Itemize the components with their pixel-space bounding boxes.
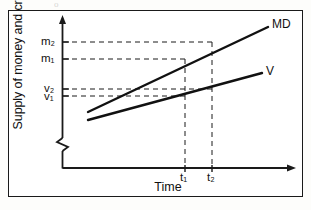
annotation-dashed-lines [63, 42, 212, 168]
x-axis-title: Time [128, 180, 208, 194]
y-tick-label-v1: v₁ [44, 90, 54, 102]
y-axis-title-wrapper: Supply of money and credit [7, 0, 29, 135]
y-axis-break-symbol [57, 138, 68, 151]
y-axis-arrowhead [59, 15, 66, 24]
figure-page: o [0, 0, 311, 210]
series-label-v: V [266, 64, 274, 78]
series-line-v [88, 73, 262, 120]
series-label-md: MD [272, 17, 291, 31]
y-axis-title: Supply of money and credit [11, 0, 25, 129]
x-tick-label-t1: t₁ [180, 171, 187, 183]
series-line-md [88, 27, 268, 112]
x-tick-label-t2: t₂ [207, 171, 215, 183]
y-tick-label-m1: m₁ [41, 52, 54, 64]
chart-axes [57, 15, 296, 172]
x-axis-arrowhead [287, 165, 296, 172]
chart-plot-area [0, 0, 311, 210]
y-tick-label-m2: m₂ [41, 35, 55, 47]
